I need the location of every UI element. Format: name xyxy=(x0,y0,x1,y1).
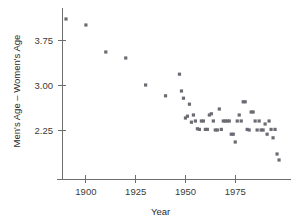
data-point xyxy=(84,23,87,26)
data-point xyxy=(236,119,239,122)
y-axis-tick-label: 3.00 xyxy=(35,80,54,91)
data-point xyxy=(267,119,270,122)
data-point xyxy=(228,119,231,122)
x-axis-tick-label: 1925 xyxy=(125,186,146,197)
data-point xyxy=(64,17,67,20)
data-point xyxy=(264,122,267,125)
data-point xyxy=(254,119,257,122)
data-point xyxy=(258,119,261,122)
data-point xyxy=(188,103,191,106)
data-point xyxy=(266,133,269,136)
data-point xyxy=(206,128,209,131)
x-axis-title: Year xyxy=(151,206,170,217)
data-point xyxy=(252,110,255,113)
x-axis-tick-label: 1975 xyxy=(225,186,246,197)
data-point xyxy=(164,94,167,97)
data-point xyxy=(182,97,185,100)
data-point xyxy=(210,112,213,115)
data-point xyxy=(273,128,276,131)
data-point xyxy=(178,73,181,76)
y-axis-tick-label: 2.25 xyxy=(35,125,54,136)
data-point xyxy=(234,140,237,143)
x-axis-tick-label: 1900 xyxy=(75,186,96,197)
data-point xyxy=(144,83,147,86)
data-point xyxy=(238,113,241,116)
data-point xyxy=(244,100,247,103)
data-point xyxy=(124,56,127,59)
plot-area: 2.253.003.751900192519501975YearMen's Ag… xyxy=(0,0,296,223)
data-point xyxy=(248,128,251,131)
data-point xyxy=(186,115,189,118)
data-point xyxy=(269,128,272,131)
data-point xyxy=(256,128,259,131)
data-point xyxy=(194,119,197,122)
x-axis-tick-label: 1950 xyxy=(175,186,196,197)
y-axis-title: Men's Age – Women's Age xyxy=(11,35,22,148)
data-point xyxy=(192,113,195,116)
scatter-chart: 2.253.003.751900192519501975YearMen's Ag… xyxy=(0,0,296,223)
data-point xyxy=(271,136,274,139)
y-axis-tick-label: 3.75 xyxy=(35,35,54,46)
data-point xyxy=(275,152,278,155)
data-point xyxy=(104,50,107,53)
data-point xyxy=(216,128,219,131)
data-point xyxy=(198,128,201,131)
data-series xyxy=(64,17,280,161)
data-point xyxy=(202,119,205,122)
data-point xyxy=(218,107,221,110)
data-point xyxy=(232,133,235,136)
data-point xyxy=(220,128,223,131)
data-point xyxy=(190,121,193,124)
data-point xyxy=(240,119,243,122)
data-point xyxy=(262,128,265,131)
data-point xyxy=(212,119,215,122)
data-point xyxy=(180,89,183,92)
data-point xyxy=(277,158,280,161)
